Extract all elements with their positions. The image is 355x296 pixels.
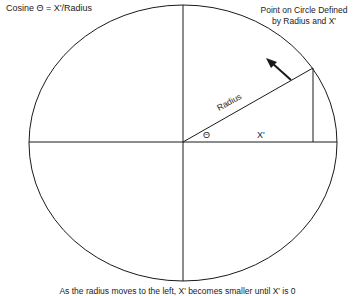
theta-label: Θ (203, 130, 210, 140)
point-on-circle-annotation: Point on Circle Defined by Radius and X' (259, 5, 349, 27)
x-prime-label: X' (257, 130, 265, 140)
diagram-caption: As the radius moves to the left, X' beco… (0, 286, 355, 296)
rotation-arrow-icon (266, 58, 291, 80)
cosine-formula-title: Cosine Θ = X'/Radius (6, 3, 92, 13)
